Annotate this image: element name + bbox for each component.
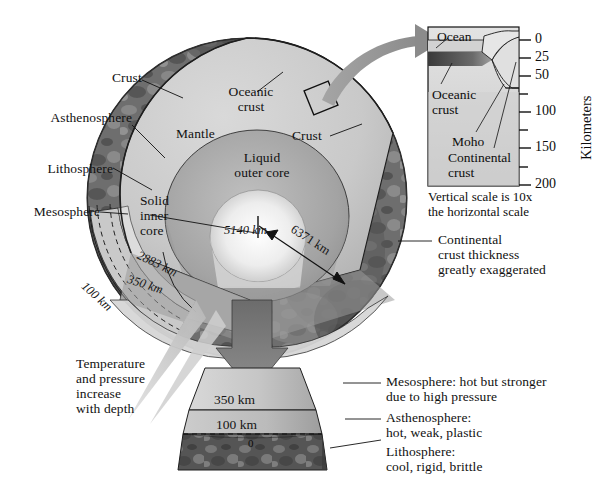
inset-label-moho: Moho bbox=[452, 134, 484, 149]
inset-scale-note: Vertical scale is 10x the horizontal sca… bbox=[428, 190, 598, 220]
callout-asthenosphere: Asthenosphere: hot, weak, plastic bbox=[386, 410, 586, 440]
wedge-label-surface: 0 bbox=[248, 437, 254, 449]
inset-tick-50: 50 bbox=[535, 67, 549, 83]
inset-tick-0: 0 bbox=[535, 31, 542, 47]
wedge-label-100km: 100 km bbox=[216, 417, 257, 433]
inset-label-continental-crust: Continental crust bbox=[448, 150, 511, 180]
inset-oceanic-crust bbox=[428, 52, 492, 66]
inset-tick-100: 100 bbox=[535, 103, 556, 119]
label-crust-left: Crust bbox=[112, 70, 142, 85]
inset-pointer-arrow bbox=[322, 24, 443, 106]
label-solid-inner-core: Solid inner core bbox=[140, 193, 169, 238]
inset-label-ocean: Ocean bbox=[437, 29, 471, 44]
label-mantle: Mantle bbox=[176, 126, 215, 141]
callout-lithosphere: Lithosphere: cool, rigid, brittle bbox=[386, 444, 586, 474]
wedge-label-350km: 350 km bbox=[214, 392, 255, 408]
callout-mesosphere: Mesosphere: hot but stronger due to high… bbox=[386, 374, 601, 404]
label-asthenosphere: Asthenosphere bbox=[0, 110, 132, 125]
label-oceanic-crust: Oceanic crust bbox=[214, 84, 288, 114]
leader-lines-callouts bbox=[330, 383, 381, 448]
inset-axis-title: Kilometers bbox=[578, 96, 595, 160]
inset-tick-25: 25 bbox=[535, 49, 549, 65]
inset-tick-150: 150 bbox=[535, 139, 556, 155]
depth-5140km: 5140 km bbox=[224, 223, 267, 238]
label-lithosphere: Lithosphere bbox=[0, 161, 113, 176]
label-crust-right: Crust bbox=[292, 128, 322, 143]
label-mesosphere: Mesosphere bbox=[0, 204, 100, 219]
callout-continental-thickness: Continental crust thickness greatly exag… bbox=[438, 232, 598, 277]
inset-axis-ticks bbox=[519, 40, 531, 185]
inset-label-oceanic-crust: Oceanic crust bbox=[432, 87, 476, 117]
leader-lithosphere-callout bbox=[330, 440, 381, 448]
label-liquid-outer-core: Liquid outer core bbox=[219, 150, 305, 180]
earth-interior-figure: Crust Oceanic crust Crust Mantle Liquid … bbox=[0, 0, 604, 492]
callout-temperature-pressure: Temperature and pressure increase with d… bbox=[76, 356, 186, 416]
